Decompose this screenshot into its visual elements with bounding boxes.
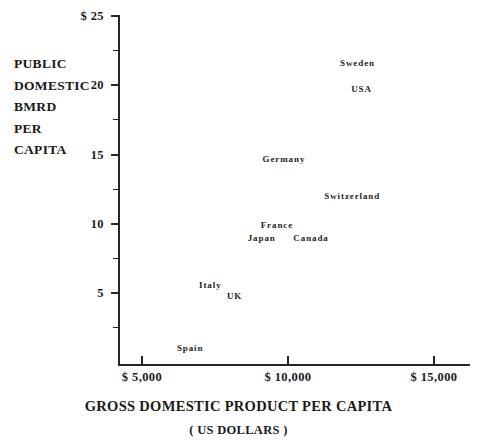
- x-axis-title: GROSS DOMESTIC PRODUCT PER CAPITA: [0, 399, 477, 414]
- x-axis-tick-label: $ 10,000: [233, 371, 343, 384]
- y-axis-title-line-1: PUBLIC: [14, 53, 114, 75]
- data-point-label: Canada: [293, 233, 328, 242]
- data-point-label: Switzerland: [324, 192, 380, 201]
- y-axis-tick: [111, 223, 120, 225]
- y-axis-title-line-5: CAPITA: [14, 139, 114, 161]
- data-point-label: Germany: [263, 154, 306, 163]
- y-axis-tick-label: 10: [62, 218, 104, 231]
- x-axis-tick-label: $ 5,000: [87, 371, 197, 384]
- y-axis-tick: [111, 15, 120, 17]
- data-point-label: Italy: [199, 280, 222, 289]
- y-axis-title-line-2: DOMESTIC: [14, 75, 114, 97]
- y-axis-minor-tick: [113, 119, 120, 120]
- data-point-label: USA: [351, 85, 372, 94]
- x-axis-tick: [141, 356, 143, 365]
- y-axis-minor-tick: [113, 189, 120, 190]
- x-axis-tick-label: $ 15,000: [379, 371, 477, 384]
- data-point-label: Spain: [177, 344, 204, 353]
- y-axis-title-line-4: PER: [14, 118, 114, 140]
- data-point-label: Japan: [248, 233, 276, 242]
- scatter-chart-figure: $ 252015105 $ 5,000$ 10,000$ 15,000 PUBL…: [0, 0, 477, 445]
- y-axis-title: PUBLIC DOMESTIC BMRD PER CAPITA: [14, 53, 114, 161]
- data-point-label: France: [261, 221, 293, 230]
- y-axis-line: [118, 16, 120, 366]
- y-axis-tick: [111, 292, 120, 294]
- x-axis-line: [118, 364, 470, 366]
- y-axis-tick-label: 5: [62, 287, 104, 300]
- data-point-label: UK: [227, 291, 242, 300]
- y-axis-minor-tick: [113, 327, 120, 328]
- y-axis-minor-tick: [113, 258, 120, 259]
- y-axis-tick-label: $ 25: [62, 10, 104, 23]
- data-point-label: Sweden: [340, 59, 375, 68]
- y-axis-minor-tick: [113, 50, 120, 51]
- x-axis-units-subtitle: ( US DOLLARS ): [0, 424, 477, 437]
- y-axis-title-line-3: BMRD: [14, 96, 114, 118]
- x-axis-tick: [433, 356, 435, 365]
- x-axis-tick: [287, 356, 289, 365]
